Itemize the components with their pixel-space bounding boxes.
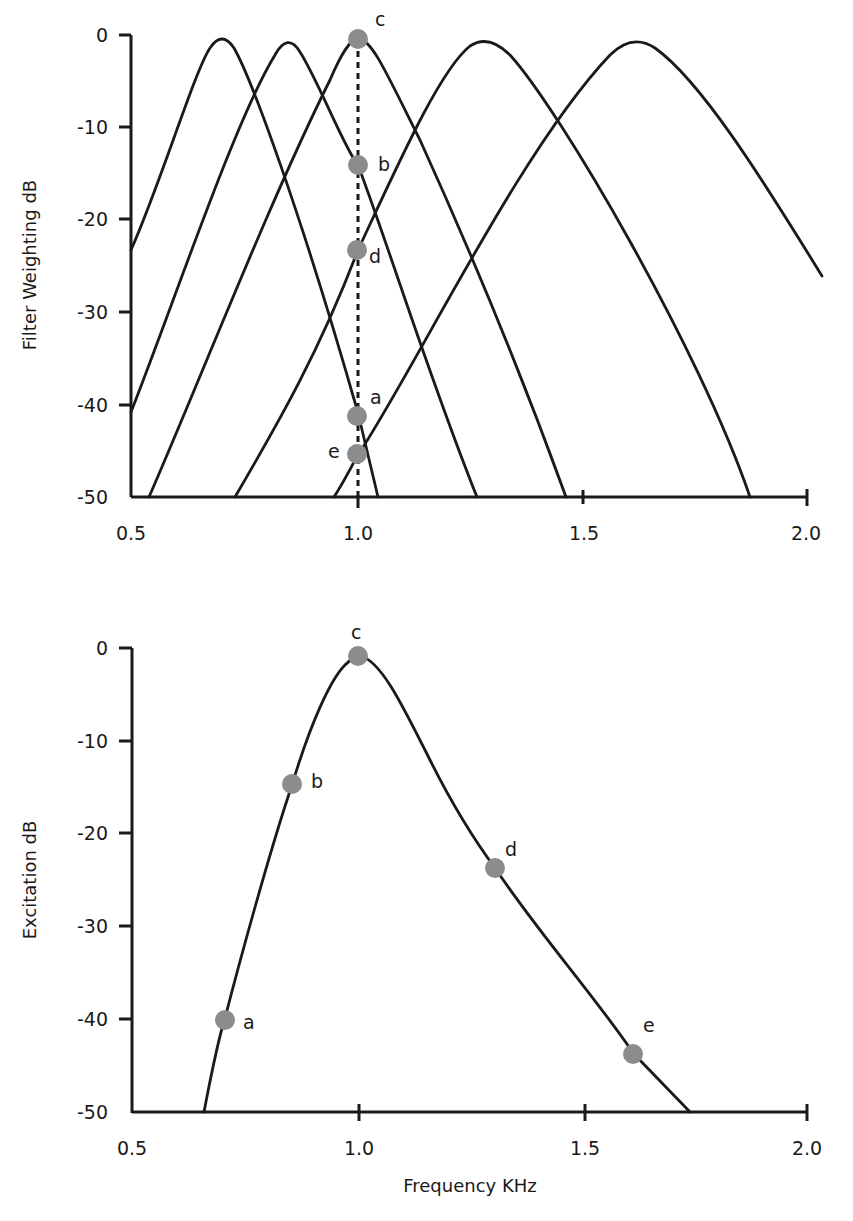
top-point-e	[347, 444, 367, 464]
bottom-point-b	[282, 774, 302, 794]
top-x-tick-1.0: 1.0	[343, 522, 373, 544]
bottom-x-axis-title: Frequency KHz	[403, 1175, 537, 1196]
figure: 0 -10 -20 -30 -40 -50 0.5 1.0 1.5 2.0 Fi…	[0, 0, 853, 1221]
bottom-label-e: e	[643, 1014, 655, 1036]
top-label-d: d	[369, 245, 381, 267]
bottom-label-b: b	[311, 770, 323, 792]
top-label-b: b	[378, 153, 390, 175]
top-label-a: a	[370, 386, 382, 408]
top-y-tick-30: -30	[77, 301, 108, 323]
bottom-y-axis-title: Excitation dB	[19, 821, 40, 940]
top-label-e: e	[328, 440, 340, 462]
top-point-c	[348, 29, 368, 49]
top-point-b	[348, 155, 368, 175]
bottom-y-tick-20: -20	[77, 822, 108, 844]
bottom-y-tick-50: -50	[77, 1101, 108, 1123]
top-x-tick-1.5: 1.5	[569, 522, 599, 544]
bottom-x-tick-2.0: 2.0	[792, 1137, 822, 1159]
bottom-label-a: a	[243, 1011, 255, 1033]
top-chart: 0 -10 -20 -30 -40 -50 0.5 1.0 1.5 2.0 Fi…	[19, 8, 822, 544]
bottom-point-d	[485, 858, 505, 878]
top-x-tick-0.5: 0.5	[116, 522, 146, 544]
bottom-y-tick-0: 0	[96, 637, 108, 659]
top-y-axis-title: Filter Weighting dB	[19, 180, 40, 350]
bottom-label-c: c	[351, 621, 361, 643]
bottom-x-tick-0.5: 0.5	[117, 1137, 147, 1159]
bottom-y-tick-30: -30	[77, 915, 108, 937]
top-y-tick-50: -50	[77, 486, 108, 508]
bottom-x-tick-1.5: 1.5	[570, 1137, 600, 1159]
top-x-tick-2.0: 2.0	[791, 522, 821, 544]
bottom-y-tick-10: -10	[77, 730, 108, 752]
top-y-tick-40: -40	[77, 394, 108, 416]
top-y-tick-0: 0	[96, 24, 108, 46]
top-y-ticks	[119, 35, 131, 405]
top-y-tick-10: -10	[77, 116, 108, 138]
bottom-label-d: d	[505, 838, 517, 860]
bottom-point-e	[623, 1044, 643, 1064]
bottom-y-tick-40: -40	[77, 1008, 108, 1030]
bottom-point-c	[348, 646, 368, 666]
top-y-tick-20: -20	[77, 208, 108, 230]
bottom-chart: 0 -10 -20 -30 -40 -50 0.5 1.0 1.5 2.0 Fr…	[19, 621, 822, 1196]
top-point-a	[347, 406, 367, 426]
bottom-y-ticks	[119, 648, 132, 1019]
filter-curve-4	[235, 41, 750, 497]
bottom-x-tick-1.0: 1.0	[344, 1137, 374, 1159]
filter-curve-5	[334, 42, 822, 497]
top-label-c: c	[375, 8, 385, 30]
excitation-curve	[204, 656, 690, 1112]
top-point-d	[347, 240, 367, 260]
bottom-point-a	[215, 1010, 235, 1030]
filter-curve-1	[131, 39, 378, 497]
